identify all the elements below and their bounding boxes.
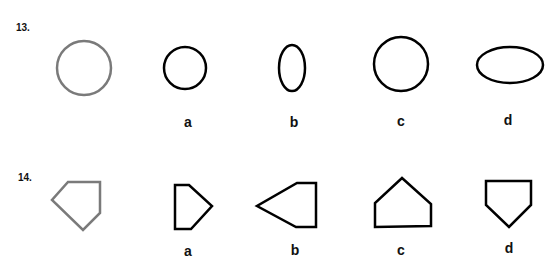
q14-option-c-label: c xyxy=(397,242,405,258)
q14-option-d-pentagon[interactable] xyxy=(486,181,531,227)
q14-option-a-pentagon[interactable] xyxy=(175,185,212,229)
q13-option-a-label: a xyxy=(184,114,192,130)
q13-option-c-label: c xyxy=(397,113,405,129)
q13-option-d-label: d xyxy=(504,112,513,128)
q14-option-d-label: d xyxy=(505,240,514,256)
q14-option-a-label: a xyxy=(184,243,192,259)
q13-target-circle xyxy=(57,41,111,95)
q13-option-b-ellipse[interactable] xyxy=(279,45,305,91)
shapes-canvas xyxy=(0,0,555,270)
q14-option-c-pentagon[interactable] xyxy=(375,178,431,227)
q14-option-b-pentagon[interactable] xyxy=(257,183,316,227)
q13-option-a-circle[interactable] xyxy=(164,47,206,89)
q13-option-c-circle[interactable] xyxy=(374,37,428,91)
q14-option-b-label: b xyxy=(291,242,300,258)
q13-option-d-ellipse[interactable] xyxy=(477,47,543,83)
q13-option-b-label: b xyxy=(290,114,299,130)
q14-target-pentagon xyxy=(52,182,100,230)
